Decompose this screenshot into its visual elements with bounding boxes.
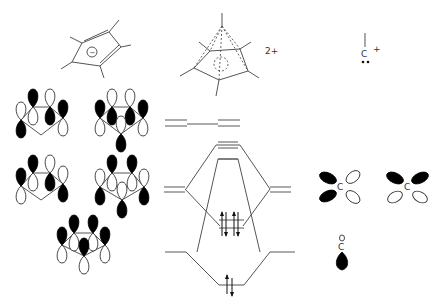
ring-orbital-3-icon bbox=[16, 155, 68, 204]
cyclopentadienyl-ring-icon: − bbox=[61, 20, 131, 78]
cap-sp-orbital-icon: C bbox=[336, 235, 347, 270]
cap-p-orbital-1-icon: C bbox=[318, 168, 363, 206]
carbon-cation-icon: C + bbox=[361, 33, 381, 63]
pentagonal-pyramid-icon: 2+ bbox=[180, 13, 278, 96]
mo-energy-levels bbox=[164, 120, 295, 297]
svg-text:2+: 2+ bbox=[265, 46, 278, 56]
svg-text:+: + bbox=[373, 44, 381, 54]
ring-orbital-2-icon bbox=[95, 89, 148, 152]
svg-text:C: C bbox=[337, 182, 343, 192]
svg-text:C: C bbox=[338, 242, 344, 252]
svg-text:C: C bbox=[404, 182, 410, 192]
svg-text:C: C bbox=[361, 49, 367, 59]
mo-diagram-canvas: − 2+ C + bbox=[0, 0, 440, 306]
svg-text:−: − bbox=[90, 49, 96, 57]
cap-p-orbital-2-icon: C bbox=[385, 170, 431, 206]
ring-orbital-4-icon bbox=[95, 155, 149, 218]
ring-orbital-5-icon bbox=[57, 215, 110, 274]
ring-orbital-1-icon bbox=[16, 89, 68, 138]
